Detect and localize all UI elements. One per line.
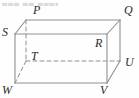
edge-TW [15, 61, 26, 83]
edge-VU [107, 61, 120, 83]
vertex-label-p: P [33, 4, 40, 16]
vertex-label-r: R [95, 37, 102, 49]
vertex-label-s: S [2, 26, 8, 38]
vertex-label-u: U [125, 56, 134, 68]
cuboid-drawing-canvas [0, 0, 139, 98]
vertex-label-t: T [31, 50, 38, 62]
vertex-label-q: Q [124, 4, 133, 16]
vertex-label-v: V [100, 84, 107, 96]
edge-SP [15, 20, 26, 34]
vertex-label-w: W [2, 84, 12, 96]
cuboid-figure: ▄▄▄ ▄▄ ▄▄▄▄ ▄▄▄ PQSRTUWV [0, 0, 139, 98]
edge-RQ [107, 20, 120, 34]
